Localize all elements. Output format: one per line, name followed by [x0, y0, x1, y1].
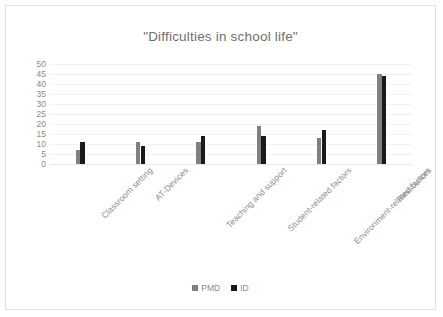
chart-legend: PMDID: [6, 284, 435, 293]
legend-swatch-icon: [231, 285, 237, 291]
x-axis-tick-label: Classroom setting: [100, 166, 154, 220]
bar-pmd-3: [257, 126, 261, 164]
x-axis: Classroom settingAT-DevicesTeaching and …: [50, 166, 412, 246]
legend-swatch-icon: [192, 285, 198, 291]
y-axis-tick-label: 20: [37, 120, 46, 129]
bar-id-2: [201, 136, 205, 164]
x-axis-tick-label: Student-related factors: [286, 166, 353, 233]
y-axis-tick-label: 50: [37, 60, 46, 69]
y-axis-tick-label: 10: [37, 140, 46, 149]
bar-id-0: [80, 142, 84, 164]
y-axis-tick-label: 0: [41, 160, 46, 169]
bar-id-1: [141, 146, 145, 164]
gridline: [50, 164, 412, 165]
bar-id-4: [322, 130, 326, 164]
bar-pmd-1: [136, 142, 140, 164]
bars-layer: [50, 64, 412, 164]
y-axis-tick-label: 5: [41, 150, 46, 159]
bar-group: [110, 64, 170, 164]
bar-group: [231, 64, 291, 164]
y-axis-tick-label: 30: [37, 100, 46, 109]
y-axis-tick-label: 15: [37, 130, 46, 139]
bar-pmd-4: [317, 138, 321, 164]
x-axis-tick-label: Teaching and support: [225, 166, 288, 229]
chart-title: "Difficulties in school life": [6, 29, 435, 44]
y-axis-tick-label: 25: [37, 110, 46, 119]
bar-group: [291, 64, 351, 164]
y-axis: 50454035302520151050: [28, 64, 46, 164]
bar-group: [171, 64, 231, 164]
legend-label: PMD: [201, 284, 220, 293]
plot-area: [50, 64, 412, 164]
legend-label: ID: [240, 284, 249, 293]
legend-entry-id[interactable]: ID: [231, 284, 249, 293]
bar-pmd-0: [76, 150, 80, 164]
y-axis-tick-label: 40: [37, 80, 46, 89]
y-axis-tick-label: 45: [37, 70, 46, 79]
bar-id-3: [261, 136, 265, 164]
y-axis-tick-label: 35: [37, 90, 46, 99]
x-axis-tick-label: Ressources: [395, 166, 433, 204]
bar-group: [352, 64, 412, 164]
legend-entry-pmd[interactable]: PMD: [192, 284, 220, 293]
bar-id-5: [382, 76, 386, 164]
x-axis-tick-label: AT-Devices: [153, 166, 189, 202]
bar-pmd-2: [196, 142, 200, 164]
bar-group: [50, 64, 110, 164]
chart-container: "Difficulties in school life" 5045403530…: [5, 5, 436, 310]
bar-pmd-5: [377, 74, 381, 164]
